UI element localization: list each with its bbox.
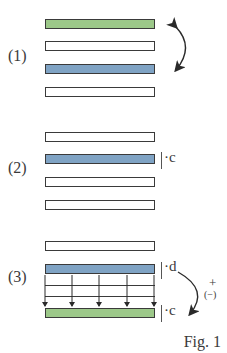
down-arrows-icon: [45, 275, 154, 306]
figure-caption: Fig. 1: [184, 333, 221, 351]
row-add-arrow-icon: [178, 272, 198, 314]
swap-arrow-icon: [176, 27, 186, 70]
arrows-layer: [0, 0, 227, 353]
